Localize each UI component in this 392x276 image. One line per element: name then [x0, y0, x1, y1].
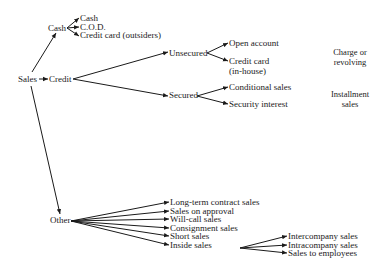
node-sales: Sales — [18, 75, 37, 84]
note-installment-line1: Installment — [320, 89, 380, 99]
note-installment-sales: Installment sales — [320, 89, 380, 109]
node-credit: Credit — [49, 75, 72, 84]
node-credit-card-inhouse-sub: (in-house) — [229, 67, 266, 76]
note-charge-line1: Charge or — [320, 47, 380, 57]
node-conditional-sales: Conditional sales — [229, 83, 291, 92]
node-credit-card-outsiders: Credit card (outsiders) — [80, 31, 161, 40]
node-inside-sales: Inside sales — [170, 241, 212, 250]
node-open-account: Open account — [229, 39, 279, 48]
node-sales-to-employees: Sales to employees — [288, 249, 357, 258]
note-charge-revolving: Charge or revolving — [320, 47, 380, 67]
node-other: Other — [50, 216, 71, 225]
node-credit-card-inhouse: Credit card — [229, 57, 269, 66]
node-unsecured: Unsecured — [169, 49, 207, 58]
note-charge-line2: revolving — [320, 57, 380, 67]
node-secured: Secured — [169, 91, 198, 100]
node-cash: Cash — [48, 24, 66, 33]
node-security-interest: Security interest — [229, 100, 288, 109]
note-installment-line2: sales — [320, 99, 380, 109]
